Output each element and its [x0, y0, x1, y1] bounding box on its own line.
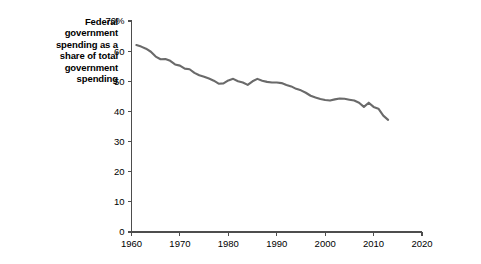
y-axis-ticks: 010203040506070%	[105, 15, 131, 237]
y-tick-label: 30	[114, 136, 125, 147]
chart-figure: Federal government spending as a share o…	[0, 0, 481, 264]
x-tick-label: 1970	[169, 238, 190, 249]
y-tick-label: 20	[114, 166, 125, 177]
y-tick-label: 40	[114, 106, 125, 117]
x-tick-label: 2010	[363, 238, 384, 249]
data-series-line	[136, 45, 388, 120]
y-tick-label: 50	[114, 76, 125, 87]
x-tick-label: 1960	[121, 238, 142, 249]
x-tick-label: 1990	[266, 238, 287, 249]
y-tick-label: 0	[119, 226, 124, 237]
x-axis-ticks: 1960197019801990200020102020	[121, 232, 433, 249]
x-tick-label: 1980	[218, 238, 239, 249]
line-chart-plot: 010203040506070% 19601970198019902000201…	[0, 0, 481, 264]
y-tick-label: 10	[114, 196, 125, 207]
y-tick-label: 60	[114, 46, 125, 57]
x-tick-label: 2020	[411, 238, 432, 249]
x-tick-label: 2000	[315, 238, 336, 249]
y-tick-label: 70%	[105, 15, 125, 26]
